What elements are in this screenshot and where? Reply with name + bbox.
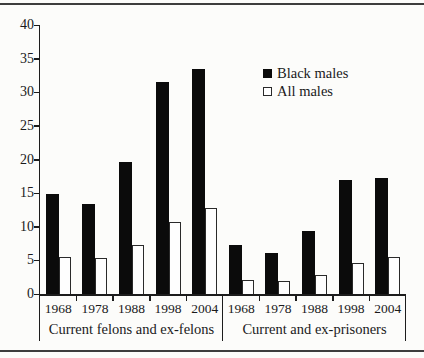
y-tick-label: 15 [4,186,34,200]
figure: 051015202530354019681978198819982004Curr… [0,0,424,358]
y-tick-mark [34,92,39,94]
x-tick-mark [149,296,151,301]
bar-black-males-2004 [375,178,388,294]
x-tick-mark [332,296,334,301]
bar-all-males-2004 [205,208,217,294]
bar-all-males-1998 [169,222,181,294]
year-label: 1988 [113,301,150,317]
x-tick-mark [112,296,114,301]
bar-black-males-1978 [265,253,278,294]
y-tick-mark [34,159,39,161]
legend-item-all-males: All males [263,84,348,99]
year-label: 1978 [77,301,114,317]
legend-label-all-males: All males [277,84,333,99]
bar-black-males-1968 [46,194,59,294]
bar-all-males-1978 [95,258,107,294]
bar-black-males-1998 [156,82,169,294]
y-tick-mark [34,58,39,60]
bar-black-males-2004 [192,69,205,294]
year-label: 1968 [40,301,77,317]
bar-black-males-1988 [302,231,315,294]
x-tick-mark [295,296,297,301]
y-tick-label: 30 [4,85,34,99]
y-tick-label: 20 [4,153,34,167]
year-label: 1998 [333,301,370,317]
y-tick-mark [34,125,39,127]
year-label: 1978 [260,301,297,317]
legend-item-black-males: Black males [263,66,348,81]
y-tick-label: 10 [4,220,34,234]
y-tick-mark [34,294,39,296]
year-label: 1998 [150,301,187,317]
x-tick-mark [259,296,261,301]
bottom-rule [0,350,424,352]
bar-black-males-1998 [339,180,352,294]
y-tick-mark [34,260,39,262]
bar-all-males-1968 [59,257,71,294]
x-tick-mark [186,296,188,301]
bar-all-males-1998 [352,263,364,294]
y-tick-label: 0 [4,287,34,301]
y-tick-mark [34,25,39,27]
black-square-icon [263,69,272,78]
white-square-icon [263,87,272,96]
top-rule [0,3,424,5]
y-tick-label: 25 [4,119,34,133]
group-label: Current and ex-prisoners [223,321,406,338]
x-tick-mark [76,296,78,301]
bar-all-males-2004 [388,257,400,294]
legend: Black males All males [263,66,348,99]
bar-all-males-1988 [315,275,327,294]
year-label: 1968 [223,301,260,317]
y-tick-label: 40 [4,18,34,32]
bar-black-males-1988 [119,162,132,294]
bar-all-males-1988 [132,245,144,294]
y-tick-label: 35 [4,52,34,66]
group-label: Current felons and ex-felons [40,321,223,338]
bar-all-males-1968 [242,280,254,294]
year-label: 2004 [369,301,406,317]
bar-all-males-1978 [278,281,290,294]
x-tick-mark [369,296,371,301]
group-divider-line [222,294,224,341]
y-tick-mark [34,193,39,195]
y-tick-label: 5 [4,253,34,267]
year-label: 1988 [296,301,333,317]
bar-black-males-1978 [82,204,95,294]
bar-black-males-1968 [229,245,242,294]
y-tick-mark [34,226,39,228]
year-label: 2004 [186,301,223,317]
right-boundary-line [405,294,407,341]
legend-label-black-males: Black males [277,66,348,81]
